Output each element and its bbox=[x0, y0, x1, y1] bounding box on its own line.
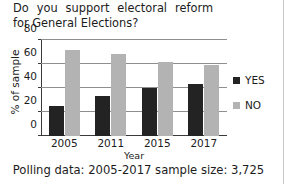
bar-group bbox=[88, 40, 135, 136]
y-axis-tick-label: 60 bbox=[24, 46, 37, 58]
legend-swatch-yes bbox=[233, 77, 240, 84]
bar-group bbox=[181, 40, 228, 136]
bar-no-2005 bbox=[65, 50, 80, 136]
bar-yes-2017 bbox=[188, 84, 203, 136]
x-axis-tick-label: 2005 bbox=[41, 137, 88, 149]
bar-group bbox=[134, 40, 181, 136]
x-axis-title: Year bbox=[41, 150, 227, 161]
y-axis-tick-label: 0 bbox=[30, 118, 37, 130]
y-axis-tick-label: 80 bbox=[24, 22, 37, 34]
legend-item-yes: YES bbox=[233, 74, 265, 86]
chart-legend: YESNO bbox=[233, 74, 265, 111]
legend-label-yes: YES bbox=[245, 74, 265, 86]
x-axis-tick-labels: 2005201120152017 bbox=[41, 137, 227, 149]
bar-yes-2005 bbox=[49, 106, 64, 136]
x-axis-tick-label: 2017 bbox=[181, 137, 228, 149]
chart-figure-panel: Do you support electoral reform for Gene… bbox=[0, 0, 284, 184]
bar-no-2011 bbox=[111, 54, 126, 136]
bar-yes-2015 bbox=[142, 88, 157, 136]
x-axis-tick-label: 2015 bbox=[134, 137, 181, 149]
bar-no-2015 bbox=[158, 62, 173, 136]
y-axis-tick-label: 40 bbox=[24, 70, 37, 82]
title-line-1: Do you support electoral reform bbox=[13, 1, 213, 16]
plot-area: 020406080 bbox=[41, 40, 227, 136]
y-axis-tick-label: 20 bbox=[24, 94, 37, 106]
bar-yes-2011 bbox=[95, 96, 110, 136]
bar-group bbox=[41, 40, 88, 136]
bar-groups bbox=[41, 40, 227, 136]
legend-label-no: NO bbox=[245, 99, 261, 111]
legend-swatch-no bbox=[233, 102, 240, 109]
chart-question-title: Do you support electoral reform for Gene… bbox=[13, 1, 213, 30]
x-axis-tick-label: 2011 bbox=[88, 137, 135, 149]
bar-no-2017 bbox=[204, 65, 219, 136]
bar-chart: % of sample 020406080 2005201120152017 Y… bbox=[0, 32, 284, 156]
legend-item-no: NO bbox=[233, 99, 265, 111]
chart-caption: Polling data: 2005-2017 sample size: 3,7… bbox=[0, 163, 277, 177]
title-line-2: for General Elections? bbox=[13, 16, 213, 31]
y-axis-title: % of sample bbox=[9, 46, 21, 118]
